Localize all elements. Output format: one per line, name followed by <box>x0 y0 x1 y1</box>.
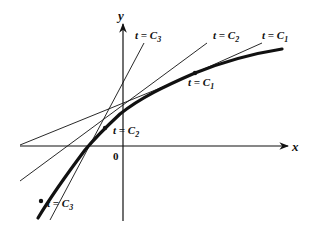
y-axis-label: y <box>116 8 124 23</box>
point-label-c1: t = C1 <box>188 76 214 91</box>
svg-text:t = C2: t = C2 <box>213 29 239 44</box>
line-label-c1: t = C1 <box>262 29 288 44</box>
x-axis-label: x <box>291 139 299 154</box>
svg-text:t = C1: t = C1 <box>262 29 288 44</box>
point-c1 <box>193 71 197 75</box>
point-c3 <box>39 199 43 203</box>
line-label-c2: t = C2 <box>213 29 239 44</box>
svg-text:t = C3: t = C3 <box>135 29 161 44</box>
solution-curve <box>38 49 282 218</box>
point-c2 <box>103 126 107 130</box>
point-label-c2: t = C2 <box>113 124 139 139</box>
svg-text:t = C2: t = C2 <box>113 124 139 139</box>
envelope-diagram: y x 0 t = C3 t = C2 t = C1 t = C1 t = C2… <box>0 0 313 234</box>
svg-text:t = C1: t = C1 <box>188 76 214 91</box>
point-label-c3: t = C3 <box>47 197 73 212</box>
origin-label: 0 <box>113 150 119 162</box>
line-label-c3: t = C3 <box>135 29 161 44</box>
svg-text:t = C3: t = C3 <box>47 197 73 212</box>
